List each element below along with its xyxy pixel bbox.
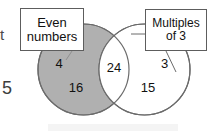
intersection-member-24: 24 xyxy=(103,60,125,75)
left-only-member-4: 4 xyxy=(52,56,66,71)
venn-diagram-screenshot: Even numbers Multiples of 3 4 16 24 3 15… xyxy=(0,0,217,133)
right-set-label-box: Multiples of 3 xyxy=(145,9,207,51)
right-only-member-15: 15 xyxy=(138,80,158,95)
margin-cropped-letter: t xyxy=(0,26,4,43)
right-set-label-line-2: of 3 xyxy=(166,30,186,43)
right-only-member-3: 3 xyxy=(158,56,171,71)
left-set-label-box: Even numbers xyxy=(20,8,84,51)
left-only-member-16: 16 xyxy=(66,80,86,95)
scan-artifact-band xyxy=(48,124,178,131)
margin-cropped-number: 5 xyxy=(2,78,12,99)
left-set-label-line-1: Even xyxy=(37,16,67,30)
left-set-label-line-2: numbers xyxy=(27,30,78,44)
